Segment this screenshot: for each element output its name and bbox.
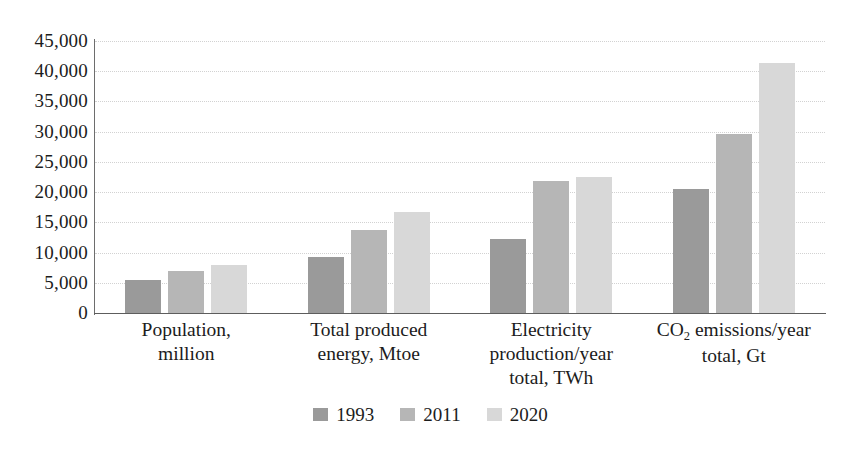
bar — [211, 265, 247, 313]
y-axis-tick-label: 40,000 — [4, 61, 88, 80]
legend-swatch-icon — [313, 408, 328, 421]
x-axis-line — [94, 313, 826, 314]
x-axis-category-label: Total producedenergy, Mtoe — [264, 318, 474, 366]
y-axis-tick-labels: 45,00040,00035,00030,00025,00020,00015,0… — [0, 0, 88, 450]
bar — [533, 181, 569, 313]
legend-label: 2020 — [510, 405, 548, 424]
bar-groups — [95, 41, 825, 313]
y-axis-tick-label: 35,000 — [4, 91, 88, 110]
x-axis-category-label: CO2 emissions/yeartotal, Gt — [629, 318, 839, 368]
y-axis-tick-label: 20,000 — [4, 182, 88, 201]
y-axis-tick-label: 45,000 — [4, 31, 88, 50]
bar — [308, 257, 344, 313]
x-axis-category-label: Population,million — [81, 318, 291, 366]
bar-chart: 45,00040,00035,00030,00025,00020,00015,0… — [0, 0, 861, 450]
legend-label: 1993 — [336, 405, 374, 424]
legend-swatch-icon — [400, 408, 415, 421]
legend-item-1993[interactable]: 1993 — [313, 405, 374, 424]
chart-legend: 199320112020 — [0, 405, 861, 424]
legend-item-2020[interactable]: 2020 — [487, 405, 548, 424]
bar-group — [490, 41, 612, 313]
y-axis-tick-label: 5,000 — [4, 273, 88, 292]
legend-label: 2011 — [423, 405, 460, 424]
bar-group — [308, 41, 430, 313]
y-axis-tick-label: 15,000 — [4, 212, 88, 231]
y-axis-tick-label: 0 — [4, 303, 88, 322]
bar — [351, 230, 387, 313]
y-axis-tick-label: 10,000 — [4, 243, 88, 262]
legend-item-2011[interactable]: 2011 — [400, 405, 460, 424]
y-axis-tick-label: 30,000 — [4, 122, 88, 141]
legend-swatch-icon — [487, 408, 502, 421]
x-axis-category-labels: Population,millionTotal producedenergy, … — [95, 318, 825, 398]
x-axis-category-label: Electricityproduction/yeartotal, TWh — [446, 318, 656, 390]
bar — [394, 212, 430, 313]
y-axis-tick-label: 25,000 — [4, 152, 88, 171]
bar — [168, 271, 204, 313]
bar — [673, 189, 709, 313]
bar — [716, 134, 752, 313]
bar — [490, 239, 526, 313]
bar-group — [125, 41, 247, 313]
bar — [576, 177, 612, 313]
bar — [759, 63, 795, 313]
bar — [125, 280, 161, 313]
bar-group — [673, 41, 795, 313]
